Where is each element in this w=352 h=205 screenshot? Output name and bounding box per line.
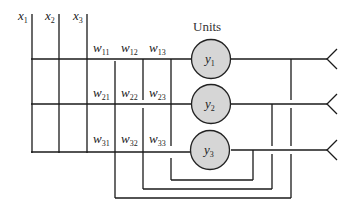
feedback-lines-left (115, 59, 171, 198)
weight-w23: w23 (149, 85, 166, 102)
input-label-x1: x1 (17, 8, 28, 25)
weight-w21: w21 (93, 85, 110, 102)
units-title: Units (193, 19, 221, 34)
weight-w22: w22 (121, 85, 138, 102)
unit-node-y3: y3 (191, 131, 230, 170)
output-arrow-icons (327, 49, 337, 160)
weight-w12: w12 (121, 40, 138, 57)
weight-w13: w13 (149, 40, 166, 57)
input-lines (32, 14, 87, 153)
row-lines (31, 59, 193, 152)
unit-node-y2: y2 (192, 85, 231, 124)
output-lines (231, 59, 327, 198)
input-label-x2: x2 (44, 8, 55, 25)
hopfield-network-diagram: x1 x2 x3 (0, 0, 352, 205)
feedback-returns (115, 180, 291, 198)
weight-w33: w33 (149, 131, 166, 148)
unit-node-y1: y1 (192, 40, 231, 79)
input-label-x3: x3 (72, 8, 83, 25)
weight-w31: w31 (93, 131, 110, 148)
weight-w11: w11 (93, 40, 109, 57)
weight-w32: w32 (121, 131, 138, 148)
weight-labels: w11 w12 w13 w21 w22 w23 w31 w32 w33 (93, 40, 166, 148)
